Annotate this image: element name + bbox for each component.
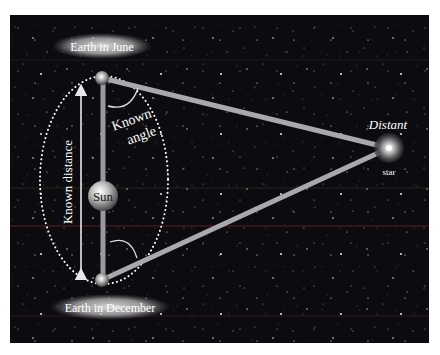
earth-june-sphere [95,71,109,85]
earth-december-sphere [95,273,109,287]
earth-december-label: Earth in December [65,301,156,315]
distant-star-label-line1: Distant [368,117,408,132]
distant-star-label-line2: star [383,167,396,177]
sun-label: Sun [93,189,114,204]
parallax-diagram: Sun Earth in June Earth in December Know… [0,0,440,355]
earth-june-label: Earth in June [70,40,133,54]
known-distance-label: Known distance [60,140,75,224]
